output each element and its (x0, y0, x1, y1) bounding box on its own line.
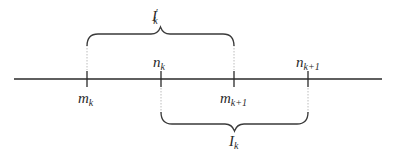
label-base: m (220, 90, 231, 106)
label-I-prime-k: I′k (152, 8, 158, 26)
label-n-k: nk (153, 55, 165, 72)
label-subscript: k (161, 61, 165, 72)
label-base: n (296, 54, 304, 70)
label-subscript: k (89, 97, 93, 108)
label-n-k-plus-1: nk+1 (296, 55, 320, 72)
top-brace (87, 27, 234, 46)
label-m-k: mk (78, 91, 93, 108)
interval-diagram: I′k nk nk+1 mk mk+1 Ik (0, 0, 396, 159)
bottom-brace (161, 112, 308, 131)
label-subscript: k+1 (231, 97, 247, 108)
label-m-k-plus-1: mk+1 (220, 91, 247, 108)
label-I-k: Ik (229, 134, 238, 151)
label-subscript: k (234, 140, 238, 151)
label-base: m (78, 90, 89, 106)
label-base: n (153, 54, 161, 70)
label-subscript: k (153, 15, 157, 26)
label-subscript: k+1 (304, 61, 320, 72)
diagram-canvas (0, 0, 396, 159)
